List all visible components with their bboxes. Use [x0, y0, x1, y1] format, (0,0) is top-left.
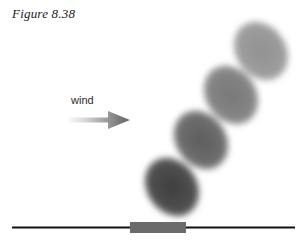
sediment-block	[130, 222, 186, 233]
ground-surface	[0, 0, 307, 241]
figure-canvas: Figure 8.38 wind	[0, 0, 307, 241]
